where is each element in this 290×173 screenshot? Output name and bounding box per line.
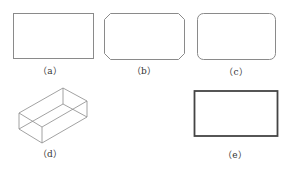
panel-a: （a） [14,14,94,77]
chamfered-rectangle [105,14,185,60]
label-b: （b） [132,66,156,76]
rounded-rectangle [198,14,276,60]
panel-b: （b） [105,14,185,77]
thick-rectangle [195,91,278,136]
figure-canvas: （a） （b） （c） （d） [0,0,290,173]
label-e: （e） [223,150,246,160]
panel-c: （c） [198,14,276,78]
figure-svg: （a） （b） （c） （d） [0,0,290,173]
wireframe-box [19,88,87,143]
label-c: （c） [224,67,247,77]
label-a: （a） [38,66,61,76]
panel-d: （d） [19,88,87,159]
panel-e: （e） [195,91,278,160]
label-d: （d） [38,149,62,159]
plain-rectangle [14,14,94,59]
